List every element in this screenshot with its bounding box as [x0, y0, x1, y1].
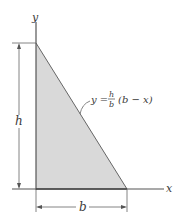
b-arrow-left-icon	[36, 205, 42, 209]
height-label: h	[15, 114, 23, 128]
curve-label-rhs: (b − x)	[118, 94, 153, 105]
b-arrow-right-icon	[121, 205, 127, 209]
base-label: b	[79, 200, 87, 214]
h-arrow-down-icon	[17, 183, 21, 189]
triangle-diagram: y x h b y = h b (b − x)	[0, 0, 181, 224]
curve-label-denominator: b	[109, 100, 114, 109]
h-arrow-up-icon	[17, 43, 21, 49]
curve-leader-line	[80, 101, 90, 114]
y-axis-label: y	[31, 11, 39, 24]
x-axis-label: x	[166, 182, 173, 195]
curve-label-numerator: h	[109, 90, 114, 99]
curve-label-lhs: y =	[90, 94, 108, 105]
